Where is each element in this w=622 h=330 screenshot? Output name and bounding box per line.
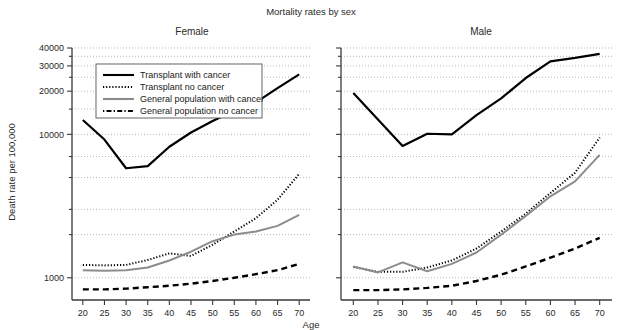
x-tick-label: 20 bbox=[348, 308, 358, 318]
x-tick-label: 25 bbox=[373, 308, 383, 318]
x-tick-label: 50 bbox=[496, 308, 506, 318]
x-tick-label: 60 bbox=[251, 308, 261, 318]
x-tick-label: 30 bbox=[398, 308, 408, 318]
x-tick-label: 20 bbox=[78, 308, 88, 318]
x-tick-label: 40 bbox=[447, 308, 457, 318]
legend-label: Transplant with cancer bbox=[140, 70, 230, 80]
x-tick-label: 30 bbox=[121, 308, 131, 318]
x-tick-label: 35 bbox=[422, 308, 432, 318]
x-tick-label: 65 bbox=[570, 308, 580, 318]
figure-background bbox=[0, 0, 622, 330]
x-tick-label: 45 bbox=[471, 308, 481, 318]
chart-title: Mortality rates by sex bbox=[266, 6, 356, 17]
x-tick-label: 70 bbox=[294, 308, 304, 318]
x-tick-label: 45 bbox=[186, 308, 196, 318]
legend-label: General population with cancer bbox=[140, 94, 264, 104]
x-tick-label: 60 bbox=[545, 308, 555, 318]
x-tick-label: 70 bbox=[595, 308, 605, 318]
x-tick-label: 50 bbox=[208, 308, 218, 318]
x-tick-label: 40 bbox=[164, 308, 174, 318]
y-tick-label: 30000 bbox=[39, 61, 64, 71]
y-tick-label: 40000 bbox=[39, 43, 64, 53]
mortality-chart-figure: Mortality rates by sex Female Male Death… bbox=[0, 0, 622, 330]
x-tick-label: 25 bbox=[99, 308, 109, 318]
legend-label: General population no cancer bbox=[140, 106, 258, 116]
y-axis-label: Death rate per 100,000 bbox=[6, 123, 17, 221]
chart-legend: Transplant with cancerTransplant no canc… bbox=[96, 64, 264, 118]
x-tick-label: 65 bbox=[273, 308, 283, 318]
x-tick-label: 55 bbox=[229, 308, 239, 318]
y-tick-label: 20000 bbox=[39, 86, 64, 96]
x-tick-label: 55 bbox=[521, 308, 531, 318]
legend-label: Transplant no cancer bbox=[140, 82, 224, 92]
x-axis-label: Age bbox=[303, 319, 320, 330]
x-tick-label: 35 bbox=[143, 308, 153, 318]
y-tick-label: 1000 bbox=[44, 273, 64, 283]
panel-title-female: Female bbox=[175, 26, 209, 37]
panel-title-male: Male bbox=[470, 26, 492, 37]
y-tick-label: 10000 bbox=[39, 130, 64, 140]
